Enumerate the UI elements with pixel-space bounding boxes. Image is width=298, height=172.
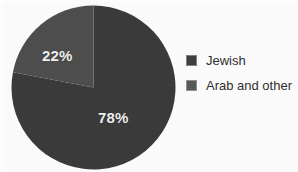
- pie-chart: 22% 78%: [9, 3, 178, 172]
- legend-item-arab-and-other[interactable]: Arab and other: [186, 73, 298, 98]
- legend-label-jewish: Jewish: [206, 54, 246, 67]
- chart-legend: Jewish Arab and other: [186, 48, 298, 98]
- pie-chart-figure: 22% 78% Jewish Arab and other: [0, 0, 298, 172]
- pie-label-jewish: 78%: [98, 109, 129, 126]
- legend-swatch-icon-jewish: [186, 55, 197, 66]
- pie-label-arab-and-other: 22%: [42, 47, 73, 64]
- pie-chart-svg: [9, 3, 178, 172]
- legend-item-jewish[interactable]: Jewish: [186, 48, 298, 73]
- legend-swatch-icon-arab-and-other: [186, 80, 197, 91]
- legend-label-arab-and-other: Arab and other: [206, 79, 292, 92]
